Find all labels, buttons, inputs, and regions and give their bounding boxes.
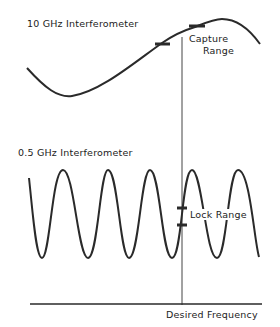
ten-ghz-response-curve — [27, 19, 260, 96]
half-ghz-label: 0.5 GHz Interferometer — [18, 147, 133, 158]
ten-ghz-label: 10 GHz Interferometer — [27, 18, 138, 29]
desired-frequency-label: Desired Frequency — [166, 309, 258, 320]
capture-range-label-line1: Capture — [189, 33, 228, 44]
interferometer-diagram: 10 GHz Interferometer Capture Range 0.5 … — [0, 0, 280, 327]
lock-range-label: Lock Range — [189, 209, 248, 220]
capture-range-label-line2: Range — [203, 45, 234, 56]
diagram-canvas — [0, 0, 280, 327]
